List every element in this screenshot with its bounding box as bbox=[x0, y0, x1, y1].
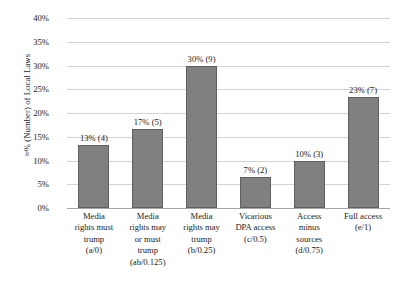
x-axis-category-label: VicariousDPA access(c/0.5) bbox=[228, 211, 282, 268]
bar[interactable] bbox=[348, 97, 379, 208]
bar-value-label: 13% (4) bbox=[80, 133, 108, 143]
bar[interactable] bbox=[240, 177, 271, 208]
x-axis-category-label-line: or must bbox=[122, 234, 174, 245]
bar-value-label: 30% (9) bbox=[188, 54, 216, 64]
bar-value-label: 7% (2) bbox=[244, 165, 268, 175]
y-axis-tick-label: 10% bbox=[0, 156, 49, 166]
x-axis-category-label-line: minus bbox=[283, 222, 335, 233]
x-axis-category-label-line: DPA access bbox=[229, 222, 281, 233]
bars-layer: 13% (4)17% (5)30% (9)7% (2)10% (3)23% (7… bbox=[67, 18, 390, 208]
bar-chart: ≈% (Number) of Local Laws 40%35%30%25%20… bbox=[0, 0, 404, 290]
x-axis-category-label-line: (d/0.75) bbox=[283, 245, 335, 256]
bar-slot: 13% (4) bbox=[67, 18, 121, 208]
x-axis-category-label-line: trump bbox=[176, 234, 228, 245]
x-axis-category-label: Accessminussources(d/0.75) bbox=[282, 211, 336, 268]
x-axis-category-label-line: Media bbox=[176, 211, 228, 222]
bar-slot: 23% (7) bbox=[336, 18, 390, 208]
bar-slot: 30% (9) bbox=[175, 18, 229, 208]
x-axis-category-label: Mediarights musttrump(a/0) bbox=[67, 211, 121, 268]
x-axis-category-label-line: (e/1) bbox=[337, 222, 389, 233]
x-axis-category-labels: Mediarights musttrump(a/0)Mediarights ma… bbox=[67, 211, 390, 268]
x-axis-category-label-line: (c/0.5) bbox=[229, 234, 281, 245]
y-axis-tick-label: 5% bbox=[0, 179, 49, 189]
bar-slot: 10% (3) bbox=[282, 18, 336, 208]
plot-area: 40%35%30%25%20%15%10%5%0% 13% (4)17% (5)… bbox=[67, 18, 390, 208]
x-axis-category-label: Mediarights mayor musttrump(ab/0.125) bbox=[121, 211, 175, 268]
bar[interactable] bbox=[186, 66, 217, 209]
x-axis-category-label-line: rights must bbox=[68, 222, 120, 233]
bar-slot: 17% (5) bbox=[121, 18, 175, 208]
x-axis-category-label-line: (a/0) bbox=[68, 245, 120, 256]
y-axis-tick-label: 40% bbox=[0, 13, 49, 23]
x-axis-category-label-line: (b/0.25) bbox=[176, 245, 228, 256]
bar[interactable] bbox=[132, 129, 163, 208]
y-axis-tick-label: 0% bbox=[0, 203, 49, 213]
y-axis-tick-label: 35% bbox=[0, 37, 49, 47]
bar-value-label: 17% (5) bbox=[134, 117, 162, 127]
x-axis-category-label-line: trump bbox=[122, 245, 174, 256]
x-axis-category-label-line: rights may bbox=[176, 222, 228, 233]
bar-value-label: 10% (3) bbox=[295, 149, 323, 159]
x-axis-category-label-line: Full access bbox=[337, 211, 389, 222]
x-axis-category-label-line: Media bbox=[68, 211, 120, 222]
x-axis-category-label: Full access(e/1) bbox=[336, 211, 390, 268]
x-axis-category-label-line: trump bbox=[68, 234, 120, 245]
x-axis-category-label-line: (ab/0.125) bbox=[122, 257, 174, 268]
bar[interactable] bbox=[78, 145, 109, 208]
y-axis-tick-label: 25% bbox=[0, 84, 49, 94]
x-axis-category-label: Mediarights maytrump(b/0.25) bbox=[175, 211, 229, 268]
y-axis-tick-label: 30% bbox=[0, 61, 49, 71]
axis-baseline bbox=[67, 208, 390, 209]
x-axis-category-label-line: Media bbox=[122, 211, 174, 222]
y-axis-tick-label: 15% bbox=[0, 132, 49, 142]
bar-value-label: 23% (7) bbox=[349, 85, 377, 95]
x-axis-category-label-line: Vicarious bbox=[229, 211, 281, 222]
x-axis-category-label-line: rights may bbox=[122, 222, 174, 233]
x-axis-category-label-line: sources bbox=[283, 234, 335, 245]
bar[interactable] bbox=[294, 161, 325, 209]
y-axis-tick-label: 20% bbox=[0, 108, 49, 118]
x-axis-category-label-line: Access bbox=[283, 211, 335, 222]
bar-slot: 7% (2) bbox=[228, 18, 282, 208]
